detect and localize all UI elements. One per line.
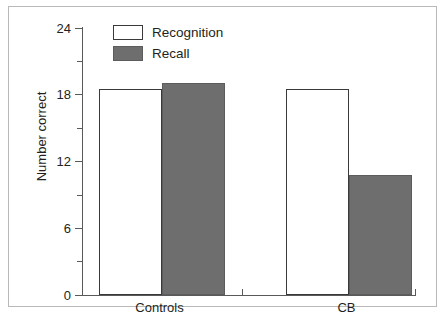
bar-cb-recognition	[286, 89, 349, 295]
y-tick-label-6: 6	[31, 222, 71, 235]
legend-item-recall: Recall	[113, 44, 263, 63]
bar-controls-recall	[162, 83, 225, 295]
x-endtick-left	[82, 289, 83, 296]
legend-item-recognition: Recognition	[113, 23, 263, 42]
figure-frame: 24 18 12 6 0 Number correct Controls CB …	[8, 6, 437, 307]
y-tick-24	[75, 28, 83, 29]
x-endtick-right	[415, 289, 416, 296]
y-tick-label-24: 24	[31, 22, 71, 35]
legend-label-recall: Recall	[152, 47, 190, 61]
x-category-label-cb: CB	[286, 301, 407, 314]
plot-area	[83, 28, 415, 295]
bar-cb-recall	[349, 175, 412, 295]
legend-swatch-recall-icon	[113, 46, 143, 61]
y-tick-18	[75, 94, 83, 95]
legend: Recognition Recall	[113, 23, 263, 65]
y-tick-12	[75, 161, 83, 162]
legend-swatch-recognition-icon	[113, 25, 143, 40]
legend-label-recognition: Recognition	[152, 26, 223, 40]
x-axis-line	[82, 295, 416, 296]
x-category-label-controls: Controls	[99, 301, 220, 314]
y-tick-6	[75, 228, 83, 229]
y-axis-title: Number correct	[34, 57, 49, 217]
x-endtick-mid	[242, 289, 243, 296]
bar-controls-recognition	[99, 89, 162, 295]
y-tick-label-0: 0	[31, 289, 71, 302]
